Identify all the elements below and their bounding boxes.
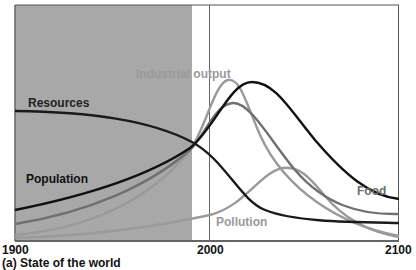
label-food: Food [357, 184, 386, 198]
x-tick-2000: 2000 [197, 243, 224, 257]
label-pollution: Pollution [216, 215, 267, 229]
x-tick-1900: 1900 [2, 243, 29, 257]
figure-caption: (a) State of the world [2, 256, 121, 270]
x-tick-2100: 2100 [385, 243, 412, 257]
label-population: Population [26, 172, 88, 186]
label-resources: Resources [28, 96, 90, 110]
shaded-history-region [15, 5, 192, 241]
label-industrial-output: Industrial output [136, 67, 231, 81]
